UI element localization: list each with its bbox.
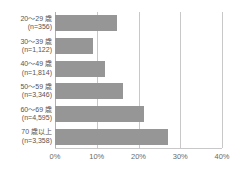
- bar-row: [55, 80, 222, 103]
- bar-row: [55, 125, 222, 148]
- category-count-line: (n=3,358): [0, 137, 52, 145]
- x-tick-label: 0%: [35, 152, 75, 162]
- category-age-line: 30〜39 歳: [0, 38, 52, 46]
- category-label: 30〜39 歳(n=1,122): [0, 38, 52, 55]
- bar-row: [55, 35, 222, 58]
- x-tick-label: 10%: [77, 152, 117, 162]
- bar: [55, 106, 144, 122]
- x-tick-label: 40%: [202, 152, 237, 162]
- category-label: 50〜59 歳(n=3,346): [0, 83, 52, 100]
- category-label: 60〜69 歳(n=4,595): [0, 106, 52, 123]
- plot-area: [55, 12, 222, 148]
- x-tick-label: 20%: [119, 152, 159, 162]
- x-tick-label: 30%: [160, 152, 200, 162]
- bar: [55, 38, 93, 54]
- bar: [55, 129, 168, 145]
- clipped-title-strip: [0, 0, 237, 8]
- x-axis-baseline: [55, 148, 222, 149]
- bar: [55, 61, 105, 77]
- category-label: 20〜29 歳(n=356): [0, 15, 52, 32]
- bar-row: [55, 12, 222, 35]
- gridline-40pct: [222, 12, 223, 148]
- bar: [55, 15, 117, 31]
- category-age-line: 60〜69 歳: [0, 106, 52, 114]
- category-count-line: (n=1,814): [0, 69, 52, 77]
- bar-chart: 20〜29 歳(n=356)30〜39 歳(n=1,122)40〜49 歳(n=…: [0, 0, 237, 172]
- category-age-line: 70 歳以上: [0, 128, 52, 136]
- category-label: 70 歳以上(n=3,358): [0, 128, 52, 145]
- bar-row: [55, 57, 222, 80]
- bar: [55, 83, 123, 99]
- category-count-line: (n=3,346): [0, 91, 52, 99]
- category-count-line: (n=356): [0, 23, 52, 31]
- category-count-line: (n=1,122): [0, 46, 52, 54]
- category-age-line: 40〜49 歳: [0, 60, 52, 68]
- category-label: 40〜49 歳(n=1,814): [0, 60, 52, 77]
- category-age-line: 20〜29 歳: [0, 15, 52, 23]
- bar-row: [55, 103, 222, 126]
- category-age-line: 50〜59 歳: [0, 83, 52, 91]
- category-count-line: (n=4,595): [0, 114, 52, 122]
